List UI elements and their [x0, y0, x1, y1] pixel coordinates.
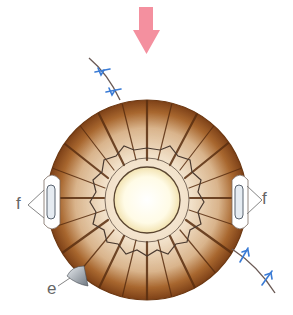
suture-lower-right — [232, 248, 275, 293]
pupil — [114, 167, 180, 233]
label-f-right: f — [262, 190, 267, 207]
suture-upper-left — [89, 58, 121, 100]
wedge-e — [67, 266, 88, 286]
direction-arrow-icon — [133, 7, 160, 54]
capsule-right — [232, 175, 248, 229]
capsule-left — [44, 175, 60, 229]
label-f-left: f — [16, 195, 21, 212]
eye-diagram: f f e — [0, 0, 293, 315]
label-e: e — [47, 280, 56, 297]
diagram-canvas — [0, 0, 293, 315]
